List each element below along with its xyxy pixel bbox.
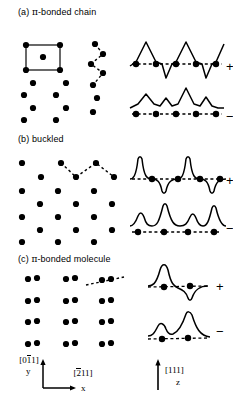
z-axis-arrow — [155, 359, 160, 366]
panel-a-text: -bonded chain — [38, 7, 96, 17]
panel-a-title: (a) π-bonded chain — [18, 7, 96, 18]
minus-density-path-b — [130, 204, 226, 226]
minus-atoms-c — [159, 335, 191, 342]
buckled-zigzag-dashed — [61, 163, 114, 177]
y-index-post: 1] — [31, 355, 39, 365]
panel-b-top-view — [14, 158, 126, 244]
x-index-bar: 2 — [76, 368, 81, 378]
pi-molecule-dashed — [86, 277, 124, 285]
panel-c-lattice-svg — [14, 274, 126, 354]
minus-density-path-c — [148, 312, 210, 337]
panel-a-lattice-svg — [18, 40, 80, 128]
plus-atom-baseline-c — [148, 286, 208, 287]
panel-a-side-svg — [83, 40, 113, 128]
panel-b-minus-curve — [130, 200, 226, 242]
panel-b-plus-svg — [130, 155, 226, 197]
panel-c-text: -bonded molecule — [37, 254, 110, 264]
panel-a-minus-svg — [130, 84, 226, 124]
y-axis-letter: y — [26, 366, 31, 376]
z-axis-letter: z — [176, 377, 180, 387]
atom-group — [21, 42, 69, 123]
panel-b-plus-curve — [130, 155, 226, 197]
x-index-post: 11] — [81, 368, 93, 378]
panel-b-plus-sign: + — [226, 174, 233, 187]
x-axis-letter: x — [81, 383, 86, 393]
panel-a-minus-sign: − — [226, 110, 233, 123]
panel-c-title: (c) π-bonded molecule — [18, 254, 111, 265]
panel-a-plus-svg — [130, 40, 226, 80]
panel-a-side-view — [83, 40, 113, 128]
minus-density-path — [130, 88, 224, 108]
panel-b-text: buckled — [32, 134, 64, 144]
panel-b-minus-sign: − — [226, 222, 233, 235]
axes-right-svg — [152, 358, 166, 392]
panel-b-title: (b) buckled — [18, 134, 64, 145]
y-index-bar: 1 — [27, 355, 32, 365]
minus-atom-baseline-c — [148, 338, 208, 339]
atom-group-b — [19, 160, 117, 245]
panel-c-plus-curve — [146, 262, 214, 304]
panel-c-plus-svg — [146, 262, 214, 304]
panel-a-minus-curve — [130, 84, 226, 124]
x-axis-index-label: [211] — [65, 368, 101, 378]
panel-a-top-view — [18, 40, 80, 128]
panel-c-minus-svg — [146, 308, 214, 350]
y-index-pre: [0 — [19, 355, 27, 365]
atom-group-c — [25, 275, 114, 347]
panel-c-top-view — [14, 274, 126, 354]
y-axis-index-label: [011] — [12, 355, 46, 365]
plus-density-path-c — [148, 265, 208, 301]
figure-root: (a) π-bonded chain — [0, 0, 233, 403]
axes-right — [152, 358, 166, 392]
plus-density-path-b — [130, 157, 226, 194]
panel-a-plus-curve — [130, 40, 226, 80]
panel-a-label: (a) — [18, 7, 29, 17]
plus-density-path — [130, 42, 224, 78]
panel-a-plus-sign: + — [226, 60, 233, 73]
x-axis-arrow — [70, 385, 76, 390]
panel-c-label: (c) — [18, 254, 29, 264]
panel-c-plus-sign: + — [216, 280, 224, 293]
panel-b-lattice-svg — [14, 158, 126, 244]
panel-b-label: (b) — [18, 134, 29, 144]
panel-c-minus-sign: − — [216, 325, 224, 338]
atom-group-side — [88, 41, 106, 115]
panel-b-minus-svg — [130, 200, 226, 242]
z-axis-index-label: [111] — [165, 365, 195, 375]
panel-c-minus-curve — [146, 308, 214, 350]
